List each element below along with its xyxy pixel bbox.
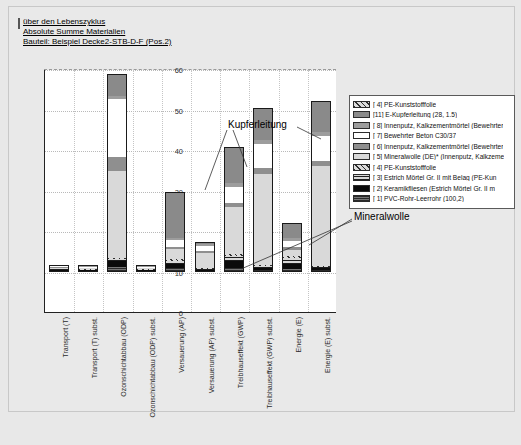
bar-segment-kupfer (282, 223, 302, 238)
legend-item-1[interactable]: [11] E-Kupferleitung (28, 1.5) (353, 110, 511, 121)
bar-3[interactable] (136, 265, 156, 272)
legend-item-3[interactable]: [ 7] Bewehrter Beton C30/37 (353, 131, 511, 142)
bar-segment-kupfer (107, 74, 127, 95)
chart-window: über den Lebenszyklus Absolute Summe Mat… (0, 0, 521, 445)
x-label-7: Treibhauseffekt (GWP) subst. (266, 317, 273, 409)
bar-6[interactable] (224, 147, 244, 272)
title-line-1: über den Lebenszyklus (23, 17, 172, 27)
bar-2[interactable] (107, 74, 127, 272)
gridline-x-5 (191, 70, 192, 312)
x-label-6: Treibhauseffekt (GWP) (237, 317, 244, 388)
bar-segment-mineral (165, 249, 185, 259)
bar-7[interactable] (253, 108, 273, 272)
title-accent-bar (18, 18, 20, 29)
gridline-x-3 (133, 70, 134, 312)
bar-segment-beton (224, 187, 244, 203)
bar-segment-innen6 (107, 157, 127, 170)
gridline-x-2 (103, 70, 104, 312)
legend-item-9[interactable]: [ 1] PVC-Rohr-Leerrohr (100,2) (353, 194, 511, 205)
legend-label-5: [ 5] Mineralwolle (DE)* (Innenputz, Kalk… (373, 153, 504, 160)
legend-label-9: [ 1] PVC-Rohr-Leerrohr (100,2) (373, 195, 464, 202)
bar-segment-mineral (224, 207, 244, 254)
legend-label-2: [ 8] Innenputz, Kalkzementmörtel (Bewehr… (373, 122, 503, 129)
bar-segment-pvc (253, 270, 273, 272)
bar-segment-pvc (224, 268, 244, 272)
gridline-x-8 (279, 70, 280, 312)
bar-segment-kupfer (165, 192, 185, 239)
x-label-0: Transport (T) (62, 317, 69, 358)
legend-label-3: [ 7] Bewehrter Beton C30/37 (373, 132, 456, 139)
x-label-1: Transport (T) subst. (91, 317, 98, 378)
legend-label-4: [ 6] Innenputz, Kalkzementmörtel (Bewehr… (373, 143, 503, 150)
gridline-x-9 (308, 70, 309, 312)
legend-swatch-beton (353, 132, 370, 139)
chart-panel: über den Lebenszyklus Absolute Summe Mat… (8, 6, 515, 412)
bar-8[interactable] (282, 223, 302, 272)
legend-swatch-kupfer (353, 111, 370, 118)
annotation-mineralwolle: Mineralwolle (354, 211, 410, 222)
plot-area (44, 70, 336, 313)
legend-label-8: [ 2] Keramikfliesen (Estrich Mörtel Gr. … (373, 185, 495, 192)
bar-segment-beton (107, 99, 127, 158)
legend-swatch-mineral (353, 153, 370, 160)
bar-segment-kupfer (311, 101, 331, 132)
bar-segment-mineral (107, 171, 127, 258)
bar-segment-pvc (136, 271, 156, 272)
legend-item-6[interactable]: [ 4] PE-Kunststofffolie (353, 162, 511, 173)
x-label-8: Energie (E) (295, 317, 302, 352)
title-line-2: Absolute Summe Materialien (23, 27, 172, 37)
bar-segment-beton (253, 144, 273, 169)
legend-swatch-pe (353, 101, 370, 108)
x-label-9: Energie (E) subst. (324, 317, 331, 373)
legend: [ 4] PE-Kunststofffolie[11] E-Kupferleit… (349, 95, 515, 209)
legend-label-0: [ 4] PE-Kunststofffolie (373, 101, 436, 108)
legend-item-0[interactable]: [ 4] PE-Kunststofffolie (353, 99, 511, 110)
legend-label-7: [ 3] Estrich Mörtel Gr. II mit Belag (PE… (373, 174, 497, 181)
x-label-2: Ozonschichtabbau (ODP) (120, 317, 127, 397)
legend-swatch-pe2 (353, 164, 370, 171)
chart-title-block: über den Lebenszyklus Absolute Summe Mat… (23, 17, 172, 47)
bar-segment-pvc (311, 270, 331, 272)
bar-0[interactable] (49, 265, 69, 272)
bar-segment-mineral (311, 166, 331, 265)
legend-item-8[interactable]: [ 2] Keramikfliesen (Estrich Mörtel Gr. … (353, 183, 511, 194)
legend-label-6: [ 4] PE-Kunststofffolie (373, 164, 436, 171)
legend-swatch-keramik (353, 185, 370, 192)
bar-segment-pvc (107, 267, 127, 272)
legend-item-2[interactable]: [ 8] Innenputz, Kalkzementmörtel (Bewehr… (353, 120, 511, 131)
gridline-x-1 (74, 70, 75, 312)
x-label-4: Versauerung (AP) (178, 317, 185, 373)
x-label-5: Versauerung (AP) subst. (208, 317, 215, 393)
bar-4[interactable] (165, 192, 185, 272)
bar-9[interactable] (311, 101, 331, 272)
y-tick-50: 50 (161, 107, 183, 116)
y-tick-60: 60 (161, 66, 183, 75)
bar-segment-pvc (49, 271, 69, 272)
annotation-kupferleitung: Kupferleitung (228, 119, 287, 130)
gridline-x-7 (249, 70, 250, 312)
bar-1[interactable] (78, 265, 98, 272)
bar-segment-pvc (195, 271, 215, 272)
x-label-3: Ozonschichtabbau (ODP) subst. (149, 317, 156, 417)
bar-segment-pvc (282, 269, 302, 272)
gridline-x-6 (220, 70, 221, 312)
bar-segment-mineral (253, 174, 273, 265)
legend-item-4[interactable]: [ 6] Innenputz, Kalkzementmörtel (Bewehr… (353, 141, 511, 152)
legend-swatch-innen6 (353, 143, 370, 150)
bar-segment-kupfer (224, 147, 244, 183)
legend-swatch-estrich (353, 174, 370, 181)
bar-segment-pvc (78, 271, 98, 272)
legend-item-7[interactable]: [ 3] Estrich Mörtel Gr. II mit Belag (PE… (353, 173, 511, 184)
bar-segment-beton (311, 136, 331, 162)
bar-segment-mineral (195, 253, 215, 268)
title-line-3: Bauteil: Beispiel Decke2-STB-D-F (Pos.2) (23, 37, 172, 47)
legend-swatch-pvc (353, 195, 370, 202)
bar-5[interactable] (195, 242, 215, 272)
legend-swatch-innen8 (353, 122, 370, 129)
legend-label-1: [11] E-Kupferleitung (28, 1.5) (373, 111, 457, 118)
y-tick-40: 40 (161, 147, 183, 156)
legend-item-5[interactable]: [ 5] Mineralwolle (DE)* (Innenputz, Kalk… (353, 152, 511, 163)
bar-segment-pvc (165, 268, 185, 272)
